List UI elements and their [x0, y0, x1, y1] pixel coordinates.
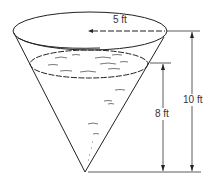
tank-height-label: 10 ft — [183, 94, 203, 105]
water-surface — [30, 50, 148, 78]
tank-height-arrow-top — [190, 32, 194, 38]
water-depth-label: 8 ft — [155, 108, 169, 119]
water-depth-arrow-top — [161, 64, 165, 70]
water-texture — [48, 55, 128, 161]
radius-label: 5 ft — [113, 14, 127, 25]
cone-diagram: 5 ft 8 ft 10 ft — [0, 0, 210, 182]
tank-height-arrow-bottom — [190, 165, 194, 171]
radius-arrowhead — [88, 29, 93, 33]
water-depth-arrow-bottom — [161, 165, 165, 171]
cone-left-side — [14, 33, 85, 172]
inner-rim-curve — [18, 38, 100, 48]
